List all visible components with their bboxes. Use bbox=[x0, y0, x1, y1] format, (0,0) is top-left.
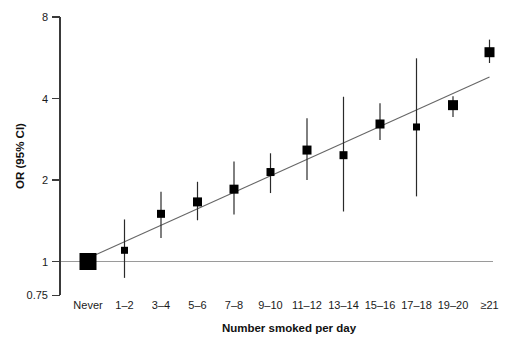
trend-line bbox=[93, 77, 489, 256]
or-marker bbox=[80, 253, 97, 270]
y-tick-label: 0.75 bbox=[27, 289, 48, 301]
or-marker bbox=[121, 247, 128, 254]
x-category-label: 19–20 bbox=[438, 299, 469, 311]
x-category-label: 7–8 bbox=[225, 299, 243, 311]
x-category-label: Never bbox=[73, 299, 103, 311]
or-marker bbox=[267, 168, 275, 176]
x-category-label: 11–12 bbox=[292, 299, 322, 311]
forest-plot-figure: 84210.75Never1–23–45–67–89–1011–1213–141… bbox=[0, 0, 510, 344]
x-category-label: 1–2 bbox=[115, 299, 133, 311]
plot-canvas: 84210.75Never1–23–45–67–89–1011–1213–141… bbox=[0, 0, 510, 344]
y-tick-label: 2 bbox=[42, 174, 48, 186]
x-category-label: ≥21 bbox=[480, 299, 498, 311]
or-marker bbox=[230, 185, 239, 194]
x-category-label: 15–16 bbox=[365, 299, 396, 311]
or-marker bbox=[157, 210, 165, 218]
or-marker bbox=[448, 100, 458, 110]
x-category-label: 17–18 bbox=[401, 299, 432, 311]
x-axis-title: Number smoked per day bbox=[222, 322, 356, 334]
x-category-label: 9–10 bbox=[258, 299, 282, 311]
or-marker bbox=[413, 123, 420, 130]
or-marker bbox=[485, 47, 495, 57]
x-category-label: 5–6 bbox=[188, 299, 206, 311]
y-tick-label: 8 bbox=[42, 11, 48, 23]
y-tick-label: 4 bbox=[42, 93, 48, 105]
x-category-label: 13–14 bbox=[328, 299, 359, 311]
or-marker bbox=[303, 146, 312, 155]
or-marker bbox=[376, 120, 385, 129]
or-marker bbox=[193, 197, 202, 206]
y-tick-label: 1 bbox=[42, 256, 48, 268]
or-marker bbox=[340, 151, 348, 159]
y-axis-title: OR (95% CI) bbox=[14, 123, 26, 189]
x-category-label: 3–4 bbox=[152, 299, 170, 311]
